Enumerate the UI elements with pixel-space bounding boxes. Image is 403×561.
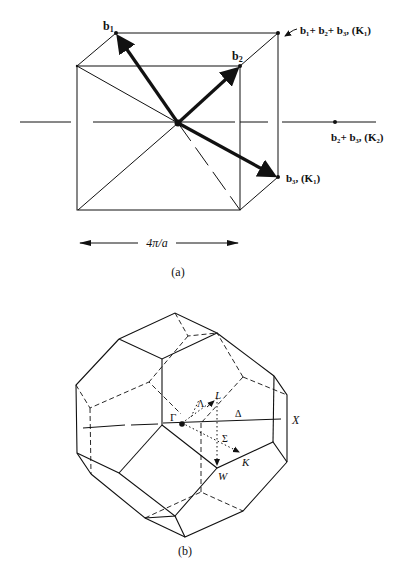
label-delta: Δ xyxy=(235,408,242,419)
label-width-4pi-a: 4π/a xyxy=(146,236,167,250)
vector-b3 xyxy=(178,123,273,175)
symmetry-lines xyxy=(182,398,239,465)
label-lambda: Λ xyxy=(197,398,205,409)
label-b2: b2 xyxy=(232,49,243,64)
lattice-points-a xyxy=(76,31,337,179)
label-W: W xyxy=(218,470,228,482)
label-b2-b3-k2: b₂+ b₃, (K₂) xyxy=(331,131,384,144)
gamma-point xyxy=(179,421,185,427)
caption-b: (b) xyxy=(178,544,192,558)
vector-b2 xyxy=(178,70,236,123)
label-K: K xyxy=(241,456,250,468)
label-L: L xyxy=(214,389,221,401)
label-gamma: Γ xyxy=(170,411,176,423)
label-sigma: Σ xyxy=(222,433,228,444)
vector-b1 xyxy=(119,38,178,123)
label-b1: b1 xyxy=(103,19,114,34)
figure-a-cube xyxy=(20,33,376,210)
label-X: X xyxy=(291,413,300,427)
label-b3-k1: b₃, (K₁) xyxy=(286,172,320,185)
caption-a: (a) xyxy=(171,265,184,279)
pointer-arrow xyxy=(285,29,297,36)
label-b1-b2-b3-k1: b₁+ b₂+ b₃, (K₁) xyxy=(300,24,371,37)
reciprocal-lattice-figure: b1 b2 b₁+ b₂+ b₃, (K₁) b₂+ b₃, (K₂) b₃, … xyxy=(0,0,403,561)
